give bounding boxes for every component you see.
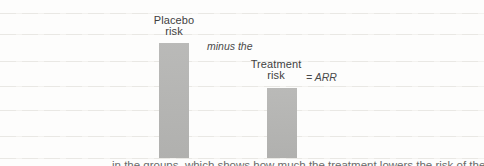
treatment-bar-label: Treatment risk [246,59,306,81]
arr-figure: Placebo risk minus the Treatment risk = … [0,0,484,166]
treatment-label-line2: risk [246,70,306,81]
placebo-bar-label: Placebo risk [144,15,204,37]
equals-arr-annotation: = ARR [306,71,337,83]
placebo-risk-bar [159,43,189,158]
ruled-line [0,110,484,111]
ruled-line [0,34,484,35]
minus-the-annotation: minus the [207,40,253,52]
ruled-line [0,136,484,137]
ruled-line [0,86,484,87]
clipped-caption: in the groups, which shows how much the … [112,158,484,166]
placebo-label-line2: risk [144,26,204,37]
treatment-risk-bar [267,88,297,158]
ruled-line [0,13,484,14]
ruled-line [0,61,484,62]
